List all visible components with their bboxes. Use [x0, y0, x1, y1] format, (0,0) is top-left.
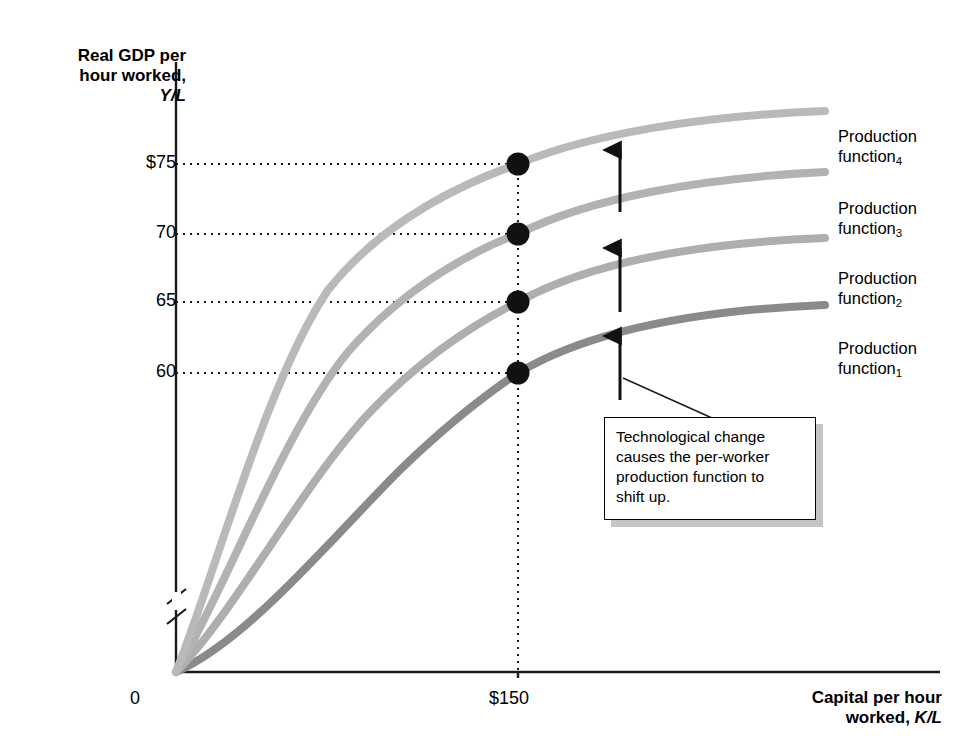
marker-65	[507, 291, 530, 314]
marker-group	[507, 153, 530, 385]
curve-label-production-function-2: Productionfunction2	[838, 268, 956, 308]
curve-label-2-line1: Production	[838, 269, 917, 287]
curve-label-3-line2: function	[838, 219, 896, 237]
curve-label-1-line2: function	[838, 359, 896, 377]
ytick-label-65: 65	[96, 290, 176, 311]
callout-line4: shift up.	[616, 488, 670, 505]
curve-label-2-line2: function	[838, 289, 896, 307]
curve-production-function-4	[176, 111, 825, 672]
x-axis-title-symbol: K/L	[915, 708, 942, 727]
ytick-label-60: 60	[96, 361, 176, 382]
marker-60	[507, 362, 530, 385]
curve-label-production-function-3: Productionfunction3	[838, 198, 956, 238]
curve-group	[176, 111, 825, 672]
y-axis-title-symbol: Y/L	[160, 86, 186, 105]
origin-label: 0	[130, 688, 140, 709]
curve-label-production-function-1: Productionfunction1	[838, 338, 956, 378]
production-function-figure: Real GDP perhour worked,Y/L Capital per …	[0, 0, 957, 753]
curve-label-production-function-4: Productionfunction4	[838, 126, 956, 166]
marker-75	[507, 153, 530, 176]
curve-label-1-subscript: 1	[896, 367, 902, 379]
y-axis-title: Real GDP perhour worked,Y/L	[36, 46, 186, 106]
x-axis-title: Capital per hourworked, K/L	[690, 688, 942, 728]
curve-label-3-line1: Production	[838, 199, 917, 217]
x-axis-title-line2-prefix: worked,	[846, 708, 915, 727]
curve-label-1-line1: Production	[838, 339, 917, 357]
curve-label-3-subscript: 3	[896, 227, 902, 239]
curve-label-2-subscript: 2	[896, 297, 902, 309]
xtick-label-150: $150	[489, 688, 529, 709]
ytick-label-75: $75	[96, 152, 176, 173]
y-axis-title-line2: hour worked,	[79, 66, 186, 85]
curve-label-4-subscript: 4	[896, 155, 902, 167]
x-axis-title-line1: Capital per hour	[812, 688, 942, 707]
marker-70	[507, 223, 530, 246]
callout-leader-line	[623, 378, 712, 418]
callout-line2: causes the per-worker	[616, 448, 769, 465]
callout-line3: production function to	[616, 468, 764, 485]
curve-label-4-line1: Production	[838, 127, 917, 145]
y-axis-title-line1: Real GDP per	[78, 46, 186, 65]
curve-label-4-line2: function	[838, 147, 896, 165]
callout-line1: Technological change	[616, 428, 765, 445]
ytick-label-70: 70	[96, 222, 176, 243]
technological-change-callout: Technological changecauses the per-worke…	[604, 417, 816, 520]
